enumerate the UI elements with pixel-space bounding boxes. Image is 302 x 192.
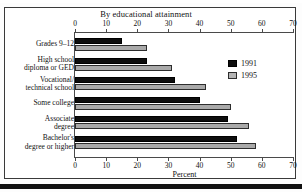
legend-label-1995: 1995 (241, 71, 257, 80)
x-tick-label-top-0: 0 (73, 19, 77, 28)
chart-legend: 1991 1995 (228, 58, 257, 82)
category-label-2: High schooldiploma or GED (4, 56, 74, 72)
x-tick-label-top-70: 70 (289, 19, 297, 28)
x-tick-label-top-10: 10 (102, 19, 110, 28)
bar-1995-group-5 (75, 123, 249, 129)
category-label-line: degree (4, 123, 74, 131)
legend-item-1995: 1995 (228, 70, 257, 80)
axis-top-line (75, 32, 294, 33)
chart-title: By educational attainment (0, 9, 292, 19)
bar-1991-group-5 (75, 116, 228, 122)
category-label-1: Grades 9–12 (4, 40, 74, 48)
x-tick-top-0 (75, 29, 76, 32)
x-tick-top-20 (137, 29, 138, 32)
bottom-rule (0, 184, 302, 189)
legend-item-1991: 1991 (228, 58, 257, 68)
x-axis-label: Percent (75, 170, 294, 179)
x-tick-label-top-40: 40 (196, 19, 204, 28)
x-tick-top-30 (168, 29, 169, 32)
x-tick-label-bot-70: 70 (289, 161, 297, 170)
category-label-4: Some college (4, 99, 74, 107)
bar-1991-group-1 (75, 38, 122, 44)
x-tick-label-bot-50: 50 (227, 161, 235, 170)
x-tick-top-70 (293, 29, 294, 32)
x-tick-label-bot-20: 20 (134, 161, 142, 170)
x-tick-label-bot-30: 30 (165, 161, 173, 170)
legend-swatch-icon-1991 (228, 60, 237, 67)
x-tick-top-50 (231, 29, 232, 32)
bar-1991-group-6 (75, 136, 237, 142)
x-tick-label-bot-40: 40 (196, 161, 204, 170)
category-label-5: Associatedegree (4, 115, 74, 131)
bar-1995-group-4 (75, 104, 231, 110)
category-label-line: diploma or GED (4, 64, 74, 72)
category-label-3: Vocational/technical school (4, 76, 74, 92)
bar-1995-group-3 (75, 84, 206, 90)
x-tick-label-top-20: 20 (134, 19, 142, 28)
category-label-line: degree or higher (4, 143, 74, 151)
legend-swatch-icon-1995 (228, 72, 237, 79)
x-tick-top-10 (106, 29, 107, 32)
x-tick-label-top-30: 30 (165, 19, 173, 28)
legend-label-1991: 1991 (241, 59, 257, 68)
bar-1991-group-4 (75, 97, 200, 103)
x-tick-label-bot-10: 10 (102, 161, 110, 170)
bar-1995-group-6 (75, 143, 256, 149)
x-tick-top-60 (262, 29, 263, 32)
x-tick-label-top-60: 60 (258, 19, 266, 28)
x-tick-label-top-50: 50 (227, 19, 235, 28)
category-label-6: Bachelor'sdegree or higher (4, 134, 74, 150)
bar-1991-group-3 (75, 77, 175, 83)
category-label-line: technical school (4, 84, 74, 92)
bar-1995-group-2 (75, 65, 172, 71)
category-label-line: Some college (4, 99, 74, 107)
x-tick-label-bot-60: 60 (258, 161, 266, 170)
bar-1991-group-2 (75, 58, 147, 64)
x-tick-top-40 (200, 29, 201, 32)
bar-1995-group-1 (75, 45, 147, 51)
category-label-line: Grades 9–12 (4, 40, 74, 48)
chart-figure: By educational attainment 00101020203030… (0, 0, 302, 192)
x-tick-label-bot-0: 0 (73, 161, 77, 170)
top-margin (0, 0, 302, 3)
